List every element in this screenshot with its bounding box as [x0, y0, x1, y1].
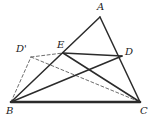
vertex-label-C: C [140, 106, 148, 116]
segment-BD [11, 56, 122, 102]
segment-Dprime-C [31, 57, 140, 102]
vertex-label-A: A [97, 2, 104, 12]
vertex-label-E: E [57, 40, 64, 50]
vertex-label-B: B [6, 106, 13, 116]
solid-segments [11, 17, 140, 102]
segment-ED [63, 53, 122, 56]
geometry-canvas [0, 0, 152, 122]
geometry-figure: A B C D E D' [0, 0, 152, 122]
vertex-label-D: D [125, 47, 133, 57]
vertex-label-Dprime: D' [16, 44, 27, 54]
segment-AB [11, 17, 100, 102]
